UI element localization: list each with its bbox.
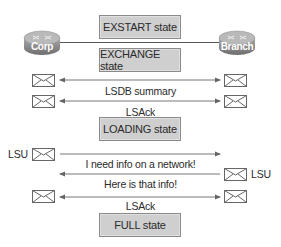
envelope-icon-lsu-right <box>224 168 247 181</box>
label-lsu-left: LSU <box>8 148 28 160</box>
envelope-icon <box>32 74 55 87</box>
envelope-icon <box>224 74 247 87</box>
label-lsu-right: LSU <box>251 168 271 180</box>
envelope-icon <box>32 95 55 108</box>
envelope-icon <box>224 190 247 203</box>
envelope-icon-lsu-left <box>32 148 55 161</box>
envelope-icon <box>224 95 247 108</box>
envelope-icon <box>32 190 55 203</box>
